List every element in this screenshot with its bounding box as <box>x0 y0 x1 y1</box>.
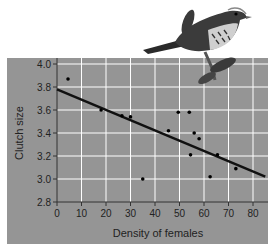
bird <box>143 8 252 54</box>
song-sparrow-illustration <box>0 0 271 248</box>
